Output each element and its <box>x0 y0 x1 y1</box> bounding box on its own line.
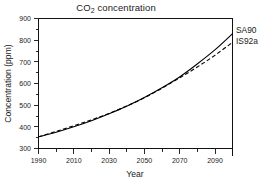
x-tick-label: 2010 <box>66 157 82 164</box>
x-tick-label: 2050 <box>137 157 153 164</box>
y-tick-label: 900 <box>19 15 31 22</box>
y-tick-label: 500 <box>19 102 31 109</box>
y-major-ticks <box>34 19 39 149</box>
y-tick-label: 300 <box>19 145 31 152</box>
y-tick-label: 700 <box>19 59 31 66</box>
x-tick-label: 2090 <box>207 157 223 164</box>
y-axis-title: Concentration (ppm) <box>3 44 13 122</box>
series-line-sa90 <box>39 34 233 137</box>
x-axis-title: Year <box>126 169 144 179</box>
x-tick-labels: 1990 2010 2030 2050 2070 2090 <box>31 157 223 164</box>
chart-figure: CO2 concentration <box>0 0 260 181</box>
legend-label-sa90: SA90 <box>236 25 257 35</box>
y-tick-label: 800 <box>19 37 31 44</box>
x-tick-label: 1990 <box>31 157 47 164</box>
y-tick-labels: 900 800 700 600 500 400 300 <box>19 15 31 152</box>
series-line-is92a <box>39 42 233 136</box>
chart-plot-area: 900 800 700 600 500 400 300 1990 2010 20… <box>0 0 260 181</box>
y-tick-label: 600 <box>19 80 31 87</box>
legend-label-is92a: IS92a <box>236 36 258 46</box>
x-tick-label: 2070 <box>172 157 188 164</box>
y-tick-label: 400 <box>19 124 31 131</box>
x-tick-label: 2030 <box>101 157 117 164</box>
